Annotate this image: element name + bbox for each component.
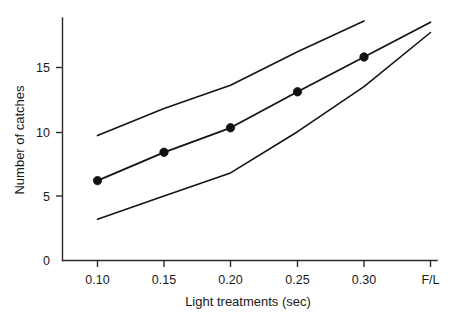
data-point-marker — [360, 53, 368, 61]
x-axis-title: Light treatments (sec) — [185, 294, 311, 309]
y-axis-title: Number of catches — [12, 85, 27, 195]
x-tick-label-0-15: 0.15 — [152, 273, 176, 287]
y-tick-label-15: 15 — [36, 61, 50, 75]
x-tick-label-0-25: 0.25 — [285, 273, 309, 287]
y-tick-labels: 0 5 10 15 — [36, 61, 50, 268]
series-group — [93, 21, 430, 219]
y-tick-label-10: 10 — [36, 126, 50, 140]
data-point-marker — [226, 124, 234, 132]
data-point-marker — [293, 88, 301, 96]
data-point-marker — [93, 176, 101, 184]
y-tick-label-5: 5 — [43, 190, 50, 204]
x-tick-label-0-10: 0.10 — [85, 273, 109, 287]
x-tick-label-0-20: 0.20 — [218, 273, 242, 287]
x-tick-label-0-30: 0.30 — [352, 273, 376, 287]
lower-confidence-curve — [98, 33, 431, 220]
x-tick-labels: 0.10 0.15 0.20 0.25 0.30 F/L — [85, 273, 439, 287]
chart-figure: 0 5 10 15 0.10 0.15 0.20 0.25 0.30 F/L L… — [0, 0, 460, 321]
axis-group — [56, 18, 437, 267]
chart-plot-area: 0 5 10 15 0.10 0.15 0.20 0.25 0.30 F/L L… — [0, 0, 460, 321]
y-tick-label-0: 0 — [43, 254, 50, 268]
data-point-marker — [160, 148, 168, 156]
x-tick-label-fl: F/L — [421, 273, 439, 287]
mean-catches-curve — [98, 22, 431, 180]
